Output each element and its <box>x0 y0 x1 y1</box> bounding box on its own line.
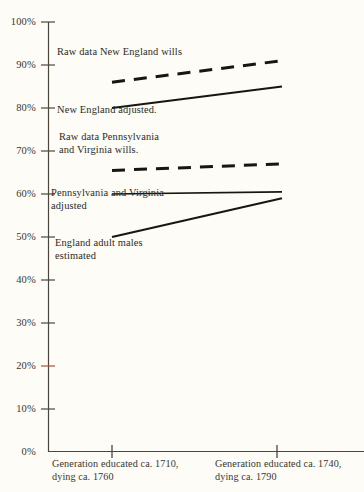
series-line-raw-penn-virginia-wills <box>112 164 282 171</box>
ytick-label-70: 70% <box>0 145 36 156</box>
ytick-label-30: 30% <box>0 317 36 328</box>
xtick-label-generation-1710: Generation educated ca. 1710, dying ca. … <box>52 458 212 483</box>
ytick-label-40: 40% <box>0 274 36 285</box>
series-label-penn-virginia-adjusted: Pennsylvania and Virginia adjusted <box>51 187 164 212</box>
series-label-new-england-adjusted: New England adjusted. <box>57 104 157 117</box>
ytick-label-100: 100% <box>0 16 36 27</box>
ytick-label-60: 60% <box>0 188 36 199</box>
chart-container: 100% 90% 80% 70% 60% 50% 40% 30% 20% 10%… <box>0 0 364 492</box>
series-line-raw-new-england-wills <box>112 61 282 82</box>
xtick-label-generation-1740: Generation educated ca. 1740, dying ca. … <box>215 458 364 483</box>
ytick-label-80: 80% <box>0 102 36 113</box>
ytick-label-90: 90% <box>0 59 36 70</box>
ytick-label-20: 20% <box>0 360 36 371</box>
ytick-label-10: 10% <box>0 403 36 414</box>
ytick-label-50: 50% <box>0 231 36 242</box>
series-label-england-adult-males: England adult males estimated <box>55 237 143 262</box>
ytick-label-0: 0% <box>0 446 36 457</box>
series-label-raw-new-england-wills: Raw data New England wills <box>57 46 182 59</box>
series-label-raw-penn-virginia-wills: Raw data Pennsylvania and Virginia wills… <box>59 131 159 156</box>
